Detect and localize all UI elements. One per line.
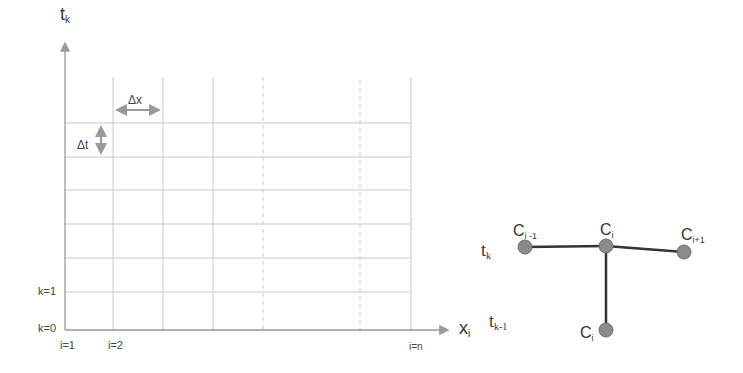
label-c-i-bottom: Ci — [580, 324, 594, 343]
finite-difference-grid — [0, 0, 743, 373]
node-c-i-minus-1 — [518, 240, 532, 254]
row-label-tk: tk — [481, 240, 491, 261]
stencil-nodes — [518, 239, 691, 337]
vertical-grid-lines — [113, 77, 411, 334]
node-c-i-plus-1 — [677, 245, 691, 259]
label-c-i-minus-1: Ci -1 — [513, 222, 537, 241]
x-axis-label: xi — [459, 318, 470, 339]
horizontal-grid-lines — [65, 123, 411, 292]
row-label-k1: k=1 — [38, 285, 56, 297]
col-label-i1: i=1 — [60, 339, 75, 351]
node-c-i-top — [599, 239, 613, 253]
node-c-i-bottom — [599, 323, 613, 337]
col-label-in: i=n — [409, 341, 423, 352]
label-c-i-top: Ci — [600, 221, 614, 240]
dt-label: Δt — [77, 138, 88, 152]
y-axis-label: tk — [60, 4, 70, 25]
row-label-tk-1: tk-1 — [489, 311, 507, 332]
stencil-edges — [525, 246, 684, 330]
col-label-i2: i=2 — [108, 339, 123, 351]
label-c-i-plus-1: Ci+1 — [681, 226, 705, 245]
row-label-k0: k=0 — [38, 322, 56, 334]
dx-label: Δx — [128, 93, 142, 107]
